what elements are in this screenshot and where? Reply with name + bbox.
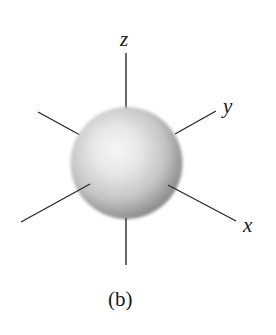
axis-x-positive bbox=[168, 185, 236, 221]
axis-y-negative bbox=[21, 184, 90, 222]
axis-x-negative bbox=[38, 112, 80, 135]
axis-y-positive bbox=[175, 111, 216, 134]
axis-label-y: y bbox=[221, 94, 233, 118]
axis-label-z: z bbox=[119, 27, 128, 51]
figure-caption: (b) bbox=[108, 287, 133, 311]
sphere-s-orbital bbox=[71, 107, 183, 219]
axis-label-x: x bbox=[242, 213, 253, 237]
orbital-diagram: z y x (b) bbox=[0, 0, 276, 335]
